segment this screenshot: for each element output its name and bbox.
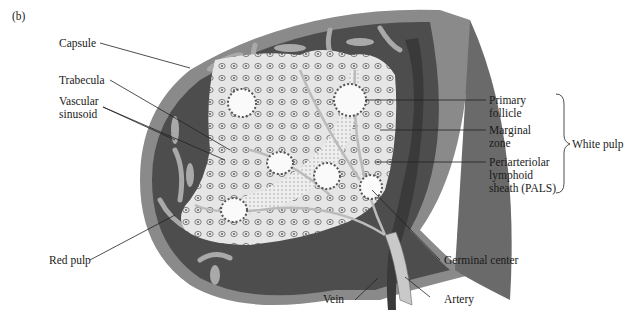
label-pals-1: Periarteriolar: [489, 156, 550, 169]
label-marginal-zone-2: zone: [489, 137, 511, 150]
label-primary-follicle-1: Primary: [489, 94, 526, 107]
white-pulp-brace: [556, 94, 570, 193]
label-pals-3: sheath (PALS): [489, 182, 556, 195]
label-artery: Artery: [444, 293, 474, 306]
label-germinal-center: Germinal center: [444, 254, 518, 267]
label-vein: Vein: [323, 293, 344, 306]
label-trabecula: Trabecula: [59, 74, 105, 87]
label-vascular-sinusoid-2: sinusoid: [59, 108, 97, 121]
label-red-pulp: Red pulp: [49, 254, 91, 267]
panel-label: (b): [12, 10, 25, 23]
label-capsule: Capsule: [59, 37, 96, 50]
label-pals-2: lymphoid: [489, 169, 533, 182]
label-white-pulp: White pulp: [572, 138, 623, 151]
label-marginal-zone-1: Marginal: [489, 124, 531, 137]
label-vascular-sinusoid-1: Vascular: [59, 95, 99, 108]
label-primary-follicle-2: follicle: [489, 107, 522, 120]
